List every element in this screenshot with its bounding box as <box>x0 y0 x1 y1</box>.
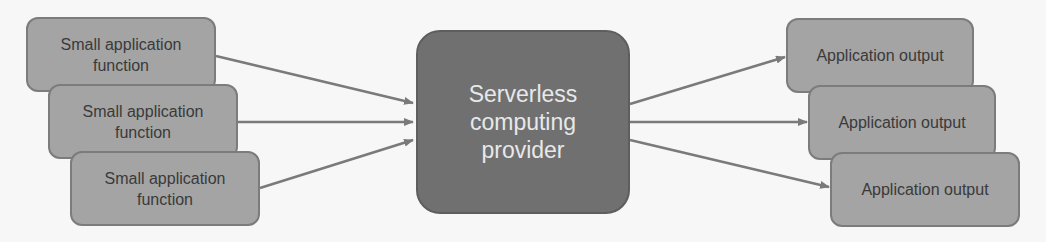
arrow-input-3 <box>260 140 413 188</box>
output-box-3: Application output <box>830 152 1020 227</box>
input-function-label: Small application function <box>105 168 226 210</box>
input-function-label: Small application function <box>83 101 204 143</box>
output-box-1: Application output <box>786 18 974 93</box>
arrow-input-1 <box>216 56 413 103</box>
input-function-label: Small application function <box>61 34 182 76</box>
output-box-2: Application output <box>808 85 996 160</box>
input-function-box-1: Small application function <box>26 17 216 92</box>
input-function-box-2: Small application function <box>48 84 238 159</box>
arrow-output-1 <box>630 57 785 104</box>
serverless-provider-box: Serverless computing provider <box>416 30 630 214</box>
output-label: Application output <box>838 112 965 133</box>
serverless-provider-label: Serverless computing provider <box>469 80 578 164</box>
output-label: Application output <box>861 179 988 200</box>
output-label: Application output <box>816 45 943 66</box>
arrow-output-3 <box>630 140 829 187</box>
input-function-box-3: Small application function <box>70 151 260 226</box>
